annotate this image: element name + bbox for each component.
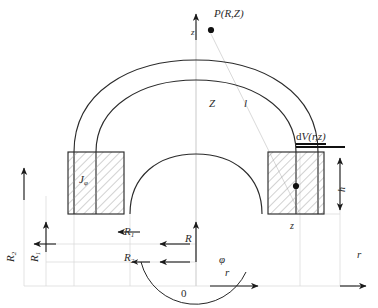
diagram-vector-layer — [0, 0, 378, 308]
current-density-label: Jφ — [79, 174, 88, 187]
left-R1-subscript: 1 — [34, 252, 42, 256]
volume-element-label: dV(r,z) — [296, 131, 326, 145]
distance-Z-label: Z — [209, 98, 215, 109]
outer-radius-label: R2 — [124, 252, 134, 265]
distance-l-label: l — [244, 98, 247, 109]
z-axis-top-label: z — [191, 28, 195, 37]
current-density-subscript: φ — [84, 179, 88, 187]
inner-radius-label: R1 — [124, 226, 134, 239]
height-h-label: h — [337, 187, 347, 192]
radial-R-label: R — [185, 233, 192, 244]
R1-subscript: 1 — [131, 231, 135, 239]
R2-symbol: R — [124, 251, 131, 263]
left-R1-symbol: R — [28, 255, 40, 262]
left-R2-subscript: 2 — [10, 252, 18, 256]
left-R2-symbol: R — [4, 255, 16, 262]
field-point-label: P(R,Z) — [214, 8, 244, 19]
axial-z-label: z — [290, 221, 294, 231]
dV-rest: V(r,z) — [302, 130, 326, 142]
left-face-hatched-rect — [68, 152, 124, 214]
volume-element-dot — [293, 183, 299, 189]
angle-phi-label: φ — [219, 254, 225, 265]
phi-arc-path — [141, 262, 246, 304]
left-outer-axis-label: R2 — [5, 252, 18, 262]
left-inner-axis-label: R1 — [29, 252, 42, 262]
R1-symbol: R — [124, 225, 131, 237]
R2-subscript: 2 — [131, 257, 135, 265]
cross-section-right — [268, 152, 324, 214]
origin-label: 0 — [181, 288, 187, 299]
field-point-dot — [208, 27, 214, 33]
r-axis-right-label: r — [357, 249, 361, 260]
cross-section-left — [68, 152, 124, 214]
diagram-canvas: P(R,Z) z Z l dV(r,z) Jφ R1 R2 R r φ z h … — [0, 0, 378, 308]
radial-r-label: r — [225, 267, 229, 278]
